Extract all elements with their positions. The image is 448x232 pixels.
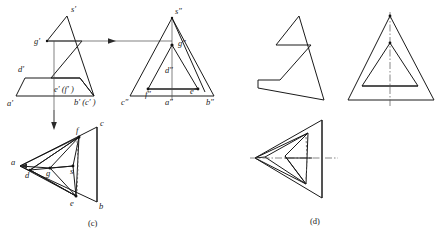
caption-c: (c) [88, 218, 98, 228]
pictorial-edge-g-f [50, 137, 79, 168]
label-s-prime: s′ [71, 4, 76, 14]
vertex-dot-s-dprime [171, 17, 173, 19]
solution-top-edge-a-e [255, 158, 306, 184]
label-f: f [76, 125, 80, 135]
side-view-group: s″ g″ d″ f″ e″ c″ a″ b″ [121, 6, 214, 107]
label-a-prime: a′ [7, 98, 13, 108]
solution-top-edge-d-e [265, 157, 306, 184]
side-view-edge-s-to-e [172, 18, 205, 92]
solution-top-edge-a-f [255, 133, 308, 158]
label-ef-prime: e′ (f′ ) [54, 84, 74, 94]
label-f-dprime: f″ [145, 89, 151, 99]
label-b-dprime: b″ [206, 97, 214, 107]
solution-top-outer-triangle [255, 120, 322, 198]
solution-front-outline [258, 16, 324, 100]
vertex-dot-g-prime [46, 40, 48, 42]
pictorial-edge-a-f [20, 137, 79, 166]
pictorial-projection-arrowhead [51, 122, 57, 130]
vertex-dot-e [75, 195, 78, 198]
solution-top-edge-d-f [265, 133, 308, 157]
solution-top-inner-edge-g-e [285, 156, 306, 184]
label-d-prime: d′ [18, 64, 24, 74]
label-e: e [70, 198, 74, 208]
label-g-dprime: g″ [178, 38, 186, 48]
label-c-dprime: c″ [121, 97, 129, 107]
front-view-group: s′ g′ d′ e′ (f′ ) a′ b′ (c′ ) [7, 4, 172, 127]
label-s-dprime: s″ [175, 6, 182, 16]
label-a-dprime: a″ [165, 97, 173, 107]
solution-top-inner-edge-g-f [285, 133, 308, 156]
label-c: c [100, 118, 104, 128]
figure-page: s′ g′ d′ e′ (f′ ) a′ b′ (c′ ) s″ [0, 0, 448, 232]
label-g: g [46, 168, 50, 178]
solution-views-group: (d) [250, 12, 434, 226]
label-d-dprime: d″ [165, 65, 173, 75]
projection-ray-arrowhead [108, 38, 116, 44]
pictorial-outer-triangle-acb [20, 127, 97, 202]
caption-d: (d) [310, 216, 320, 226]
solution-side-inner-apex-dot [389, 42, 392, 45]
descriptive-geometry-figure: s′ g′ d′ e′ (f′ ) a′ b′ (c′ ) s″ [0, 0, 448, 232]
label-b: b [99, 201, 103, 211]
solution-side-outer-triangle [348, 16, 434, 100]
solution-side-apex-dot [389, 15, 392, 18]
label-a: a [11, 157, 15, 167]
label-g-prime: g′ [34, 36, 40, 46]
label-e-dprime: e″ [190, 86, 198, 96]
label-bc-prime: b′ (c′ ) [74, 97, 96, 107]
vertex-dot-f [78, 136, 81, 139]
vertex-dot-g-dprime [170, 43, 173, 46]
pictorial-view-group: c f a d g s e b (c) [11, 110, 104, 228]
